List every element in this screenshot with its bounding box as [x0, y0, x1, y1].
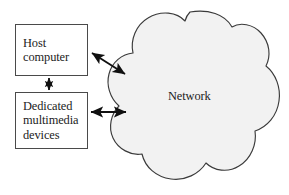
node-host-computer-label: Host computer — [16, 36, 69, 65]
node-network-label: Network — [168, 89, 211, 104]
diagram-canvas: Host computer Dedicated multimedia devic… — [0, 0, 289, 195]
node-dedicated-multimedia-devices-label: Dedicated multimedia devices — [16, 99, 78, 143]
node-dedicated-multimedia-devices[interactable]: Dedicated multimedia devices — [15, 92, 88, 149]
node-host-computer[interactable]: Host computer — [15, 24, 88, 76]
